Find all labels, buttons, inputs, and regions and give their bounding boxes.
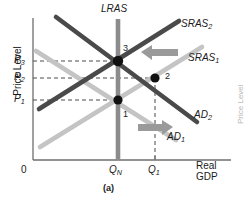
equilibrium-label-3: 3 (123, 44, 128, 53)
price-tick-p2: P2 (14, 72, 25, 82)
curve-label-sras1-sub: 1 (215, 56, 219, 65)
quantity-tick-qn-sub: N (117, 168, 122, 177)
curve-label-ad2: AD2 (194, 110, 212, 120)
price-tick-p3-sub: 3 (21, 58, 25, 67)
quantity-tick-q1: Q1 (148, 165, 160, 175)
equilibrium-point-1 (113, 95, 122, 104)
price-tick-p3-base: P (14, 54, 21, 65)
price-tick-p3: P3 (14, 55, 25, 65)
curve-label-ad1: AD1 (167, 132, 185, 142)
x-axis-title: Real GDP (196, 160, 218, 182)
curve-label-ad1-base: AD (167, 131, 181, 142)
origin-label: 0 (21, 165, 27, 175)
price-tick-p2-sub: 2 (21, 75, 25, 84)
curve-label-sras2-base: SRAS (181, 18, 208, 29)
curve-label-sras1: SRAS1 (188, 53, 219, 63)
curve-label-ad1-sub: 1 (181, 135, 185, 144)
equilibrium-label-1: 1 (123, 110, 128, 119)
panel-caption: (a) (103, 183, 114, 193)
sras-shift-arrow (141, 45, 178, 60)
price-tick-p2-base: P (14, 71, 21, 82)
curve-label-sras2-sub: 2 (208, 22, 212, 31)
curve-label-sras2: SRAS2 (181, 19, 212, 29)
curve-label-ad2-base: AD (194, 109, 208, 120)
equilibrium-point-3 (113, 56, 123, 66)
ad-as-diagram-panel-a: Price Level P3 P2 P1 0 QN Q1 Real GDP LR… (0, 0, 249, 199)
equilibrium-point-2 (150, 73, 159, 82)
curve-label-ad2-sub: 2 (208, 113, 212, 122)
x-axis-title-line2: GDP (196, 171, 218, 182)
equilibrium-label-2: 2 (165, 72, 170, 81)
quantity-tick-q1-sub: 1 (156, 168, 160, 177)
curve-label-sras1-base: SRAS (188, 52, 215, 63)
price-tick-p1: P1 (14, 94, 25, 104)
quantity-tick-qn: QN (109, 165, 122, 175)
curve-label-lras: LRAS (101, 4, 127, 14)
price-tick-p1-sub: 1 (21, 97, 25, 106)
curve-label-lras-base: LRAS (101, 3, 127, 14)
adjacent-panel-y-axis-title: Price Level (236, 62, 248, 124)
quantity-tick-q1-base: Q (148, 164, 156, 175)
quantity-tick-qn-base: Q (109, 164, 117, 175)
x-axis-title-line1: Real (196, 160, 218, 171)
price-tick-p1-base: P (14, 93, 21, 104)
